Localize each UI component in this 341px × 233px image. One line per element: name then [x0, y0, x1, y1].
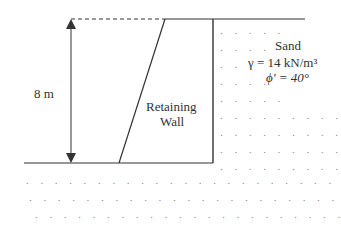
sand-dots: . . . . . — [219, 28, 284, 36]
ground-dots: . . . . . . . . . . . . . . . . . . . . … — [28, 195, 341, 203]
wall-label-line2: Wall — [160, 114, 184, 129]
ground-dots: . . . . . . . . . . . . . . . . . . . . … — [34, 212, 341, 220]
sand-dots: . . . — [219, 62, 255, 70]
sand-dots: . . . . — [219, 79, 269, 87]
soil-friction-angle: ϕ' = 40° — [266, 70, 309, 85]
sand-dots: . . . . . — [219, 96, 284, 104]
wall-front-face — [119, 19, 165, 163]
sand-dots: . . . . . . . . . . . . . — [219, 147, 341, 155]
arrow-up-icon — [66, 19, 76, 29]
sand-dots: . . . . . . . . . . . . . — [219, 130, 341, 138]
arrow-down-icon — [66, 153, 76, 163]
ground-dots: . . . . . . . . . . . . . . . . . . . . … — [25, 178, 341, 186]
sand-dots: . . . . — [219, 45, 269, 53]
soil-name: Sand — [275, 38, 301, 53]
height-label: 8 m — [34, 86, 54, 101]
wall-label-line1: Retaining — [146, 99, 197, 114]
sand-dots: . . . . . . . . . . . . . — [219, 164, 341, 172]
sand-dots: . . . . . . . . . . . . . — [219, 113, 341, 121]
soil-unit-weight: γ = 14 kN/m³ — [248, 55, 317, 70]
